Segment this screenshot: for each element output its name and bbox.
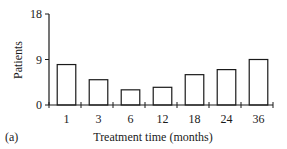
x-tick-label: 24 — [221, 112, 233, 126]
y-axis-label: Patients — [11, 41, 25, 79]
x-tick-labels-group: 13612182436 — [64, 112, 265, 126]
bar-12 — [153, 87, 172, 105]
bar-1 — [57, 65, 76, 105]
bars-group — [57, 60, 268, 106]
x-tick-label: 12 — [157, 112, 169, 126]
y-tick-label: 9 — [36, 53, 42, 67]
chart-canvas: 0918 13612182436 Patients Treatment time… — [0, 0, 287, 149]
bar-24 — [217, 70, 236, 105]
bar-chart: 0918 13612182436 Patients Treatment time… — [0, 0, 287, 149]
bar-36 — [249, 60, 268, 106]
bar-18 — [185, 75, 204, 105]
y-tick-label: 18 — [30, 7, 42, 21]
panel-label: (a) — [5, 130, 18, 144]
x-tick-label: 18 — [189, 112, 201, 126]
bar-3 — [89, 80, 108, 105]
x-axis-label: Treatment time (months) — [93, 130, 213, 144]
x-tick-label: 6 — [128, 112, 134, 126]
bar-6 — [121, 90, 140, 105]
y-ticks-group: 0918 — [30, 7, 49, 112]
y-tick-label: 0 — [36, 98, 42, 112]
x-tick-label: 36 — [253, 112, 265, 126]
x-tick-label: 3 — [96, 112, 102, 126]
x-tick-label: 1 — [64, 112, 70, 126]
